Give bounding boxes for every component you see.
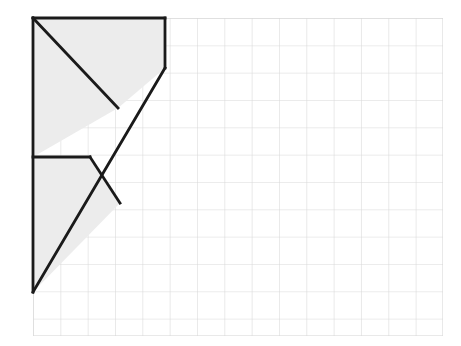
grid-polygon-figure: [0, 0, 461, 346]
diagram-canvas: [0, 0, 461, 346]
